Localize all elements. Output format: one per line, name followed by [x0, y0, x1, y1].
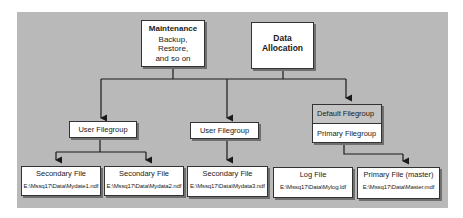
file-1-title: Secondary File: [22, 170, 100, 179]
maintenance-title: Maintenance: [142, 24, 204, 33]
file-2-path: E:\Mssq17\Data\Mydata2.ndf: [105, 183, 183, 190]
file-5-title: Primary File (master): [358, 171, 439, 180]
data-allocation-title-2: Allocation: [252, 44, 313, 54]
maintenance-line-1: Backup,: [142, 35, 204, 44]
data-allocation-box: Data Allocation: [251, 22, 314, 69]
default-filegroup-header: Default Filegroup: [313, 105, 381, 124]
file-secondary-3: Secondary File E:\Mssq17\Data\Mydata3.nd…: [187, 166, 268, 197]
file-5-path: E:\Mssq17\Data\Master.mdf: [358, 184, 439, 191]
file-3-title: Secondary File: [188, 170, 267, 179]
file-3-path: E:\Mssq17\Data\Mydata3.ndf: [188, 183, 267, 190]
file-log: Log File E:\Mssq17\Data\Mylog.ldf: [273, 167, 353, 198]
maintenance-box: Maintenance Backup, Restore, and so on: [141, 20, 205, 67]
maintenance-line-3: and so on: [142, 54, 204, 63]
user-filegroup-2-label: User Filegroup: [200, 126, 249, 135]
file-4-path: E:\Mssq17\Data\Mylog.ldf: [274, 184, 352, 191]
maintenance-line-2: Restore,: [142, 44, 204, 53]
file-2-title: Secondary File: [105, 170, 183, 179]
user-filegroup-1: User Filegroup: [69, 121, 137, 138]
file-secondary-1: Secondary File E:\Mssq17\Data\Mydate1.nd…: [21, 166, 101, 196]
primary-filegroup-label: Primary Filegroup: [313, 124, 381, 143]
file-1-path: E:\Mssq17\Data\Mydate1.ndf: [22, 183, 100, 190]
file-4-title: Log File: [274, 171, 352, 180]
user-filegroup-2: User Filegroup: [190, 122, 259, 139]
user-filegroup-1-label: User Filegroup: [78, 125, 127, 134]
file-primary-master: Primary File (master) E:\Mssq17\Data\Mas…: [357, 167, 440, 199]
default-primary-filegroup: Default Filegroup Primary Filegroup: [312, 104, 382, 143]
file-secondary-2: Secondary File E:\Mssq17\Data\Mydata2.nd…: [104, 166, 184, 196]
